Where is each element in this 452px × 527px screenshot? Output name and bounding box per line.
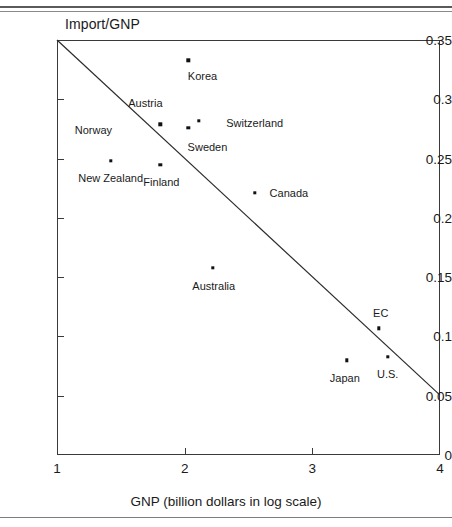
data-point (197, 119, 200, 122)
data-point (187, 58, 190, 61)
x-tick-label: 3 (309, 461, 317, 476)
plot-frame (57, 40, 440, 455)
y-tick-label: 0.2 (404, 210, 452, 225)
data-point-label: Norway (75, 124, 112, 136)
data-point-label: Japan (330, 372, 360, 384)
data-point-label: Finland (143, 176, 179, 188)
x-tick-mark (185, 448, 186, 455)
data-point (377, 326, 380, 329)
y-tick-label: 0.3 (404, 92, 452, 107)
y-tick-mark (57, 218, 64, 219)
data-point-label: U.S. (377, 368, 398, 380)
data-point-label: EC (373, 307, 388, 319)
data-point (187, 126, 190, 129)
y-tick-label: 0.1 (404, 329, 452, 344)
x-tick-label: 4 (436, 461, 444, 476)
data-point (159, 163, 162, 166)
data-point-label: New Zealand (78, 172, 143, 184)
data-point-label: Australia (192, 280, 235, 292)
x-tick-mark (312, 448, 313, 455)
y-tick-label: 0.35 (404, 33, 452, 48)
data-point-label: Austria (128, 97, 162, 109)
y-tick-mark (57, 396, 64, 397)
data-point (109, 159, 112, 162)
y-tick-label: 0 (404, 448, 452, 463)
y-tick-mark (57, 277, 64, 278)
y-tick-mark (57, 99, 64, 100)
y-tick-mark (57, 159, 64, 160)
data-point (345, 358, 348, 361)
data-point-label: Canada (270, 187, 309, 199)
data-point (253, 191, 256, 194)
x-tick-label: 2 (181, 461, 189, 476)
y-tick-label: 0.05 (404, 388, 452, 403)
data-point-label: Sweden (188, 141, 228, 153)
y-tick-label: 0.25 (404, 151, 452, 166)
data-point (211, 266, 214, 269)
data-point-label: Korea (188, 70, 217, 82)
y-tick-label: 0.15 (404, 270, 452, 285)
x-axis-title: GNP (billion dollars in log scale) (0, 494, 452, 509)
data-point (386, 355, 389, 358)
scatter-chart: Import/GNP 00.050.10.150.20.250.30.35 12… (0, 0, 452, 527)
x-tick-label: 1 (53, 461, 61, 476)
data-point-label: Switzerland (226, 117, 283, 129)
y-tick-mark (57, 336, 64, 337)
y-axis-title: Import/GNP (65, 16, 140, 32)
data-point (159, 122, 162, 125)
